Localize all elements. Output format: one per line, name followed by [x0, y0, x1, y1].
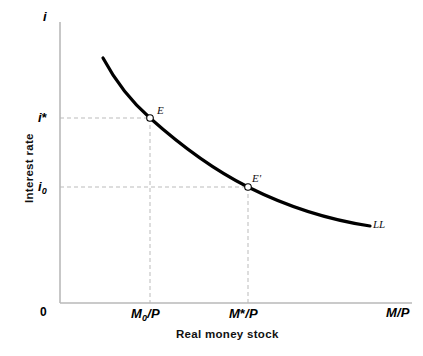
- x-tick-m0-rest: /P: [147, 306, 160, 321]
- y-axis-title: Interest rate: [24, 133, 36, 203]
- ll-curve: [103, 58, 370, 226]
- point-marker-e-prime: [245, 184, 252, 191]
- curve-label-ll: LL: [373, 219, 385, 230]
- axes: [60, 22, 412, 303]
- chart-canvas: i i* i0 0 M0/P M*/P M/P Real money stock…: [0, 0, 423, 356]
- point-label-e-prime-text: E': [252, 172, 261, 184]
- y-tick-i-zero-sub: 0: [42, 186, 47, 196]
- x-tick-m0-sub: 0: [142, 313, 147, 323]
- y-axis-title-text: Interest rate: [23, 133, 35, 203]
- x-axis-variable-label: M/P: [386, 306, 410, 319]
- x-axis-title-text: Real money stock: [176, 328, 279, 340]
- point-label-e-prime: E': [252, 173, 261, 184]
- x-axis-title: Real money stock: [176, 329, 279, 341]
- x-tick-mstar-rest: /P: [245, 306, 258, 321]
- x-tick-mstar-main: M: [229, 306, 240, 321]
- x-axis-variable-p: P: [401, 305, 410, 320]
- chart-plot-area: [0, 0, 423, 356]
- x-tick-label-m0-over-p: M0/P: [131, 307, 160, 320]
- guide-lines: [60, 118, 248, 303]
- x-tick-m0-main: M: [131, 306, 142, 321]
- x-axis-variable-m: M: [386, 305, 397, 320]
- x-tick-label-m-star-over-p: M*/P: [229, 307, 258, 320]
- y-tick-label-i-star: i*: [38, 111, 47, 124]
- point-label-e: E: [157, 105, 164, 116]
- origin-label: 0: [40, 306, 47, 318]
- point-marker-e: [147, 115, 154, 122]
- ll-curve-path: [103, 58, 370, 226]
- y-axis-variable-label: i: [43, 10, 47, 23]
- y-axis-variable-text: i: [43, 9, 47, 24]
- origin-text: 0: [40, 305, 47, 319]
- curve-label-ll-text: LL: [373, 218, 385, 230]
- y-tick-label-i-zero: i0: [38, 180, 47, 193]
- point-label-e-text: E: [157, 104, 164, 116]
- y-tick-i-star-sup: *: [42, 110, 47, 125]
